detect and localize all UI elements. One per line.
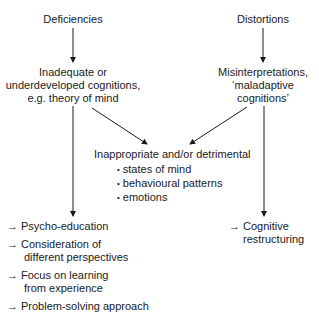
arrow-misinterpretations-to-inappropriate xyxy=(190,107,247,144)
right-arrow-icon: → xyxy=(7,220,18,232)
right-arrow-icon: → xyxy=(229,220,240,232)
intervention-item: →Problem-solving approach xyxy=(7,300,149,313)
node-misinterpretations-line-2: ‘maladaptive xyxy=(232,79,294,92)
right-arrow-icon: → xyxy=(7,300,18,312)
node-misinterpretations-line-1: Misinterpretations, xyxy=(218,66,308,79)
node-inadequate-line-3: e.g. theory of mind xyxy=(27,92,118,105)
node-inadequate-line-1: Inadequate or xyxy=(39,66,107,79)
bullet-item: states of mind xyxy=(117,163,191,177)
right-arrow-icon: → xyxy=(7,269,18,281)
node-misinterpretations-line-3: cognitions’ xyxy=(237,92,289,105)
intervention-item: →Cognitive xyxy=(229,220,289,233)
arrow-inadequate-to-inappropriate xyxy=(92,108,147,144)
intervention-item-continuation: restructuring xyxy=(243,233,304,246)
intervention-item: →Psycho-education xyxy=(7,220,108,233)
intervention-item: →Focus on learning xyxy=(7,269,108,282)
intervention-item-continuation: different perspectives xyxy=(24,251,128,264)
intervention-item: →Consideration of xyxy=(7,238,101,251)
node-inadequate-line-2: underdeveloped cognitions, xyxy=(6,79,141,92)
bullet-item: behavioural patterns xyxy=(117,177,223,191)
bullet-item: emotions xyxy=(117,191,167,205)
node-distortions: Distortions xyxy=(237,13,289,26)
node-inappropriate-heading: Inappropriate and/or detrimental xyxy=(94,148,251,161)
node-deficiencies: Deficiencies xyxy=(43,13,102,26)
intervention-item-continuation: from experience xyxy=(24,282,103,295)
right-arrow-icon: → xyxy=(7,238,18,250)
